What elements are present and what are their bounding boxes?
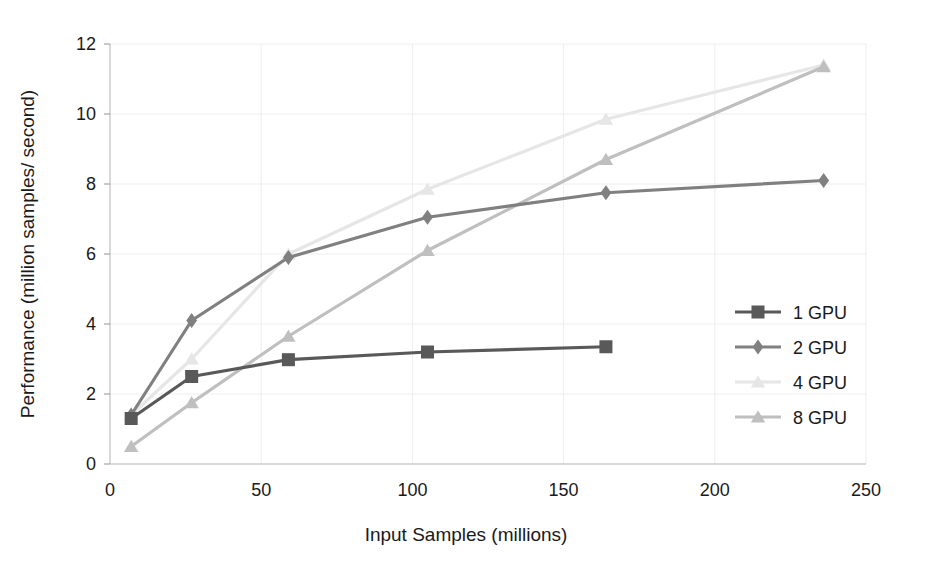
y-tick-label: 6: [86, 244, 96, 264]
legend-label: 4 GPU: [793, 373, 847, 393]
x-tick-label: 50: [251, 480, 271, 500]
x-tick-label: 200: [700, 480, 730, 500]
data-point-marker: [601, 185, 612, 200]
legend-label: 2 GPU: [793, 338, 847, 358]
gridlines: [110, 44, 866, 464]
series-line: [131, 347, 606, 419]
x-tick-label: 0: [105, 480, 115, 500]
line-chart: 024681012050100150200250 1 GPU2 GPU4 GPU…: [0, 0, 941, 566]
chart-container: 024681012050100150200250 1 GPU2 GPU4 GPU…: [0, 0, 941, 566]
data-point-marker: [282, 353, 295, 366]
series-4-gpu: [124, 58, 831, 420]
legend-marker-icon: [752, 306, 765, 319]
data-point-marker: [185, 370, 198, 383]
data-point-marker: [420, 244, 434, 256]
series-layer: [124, 58, 831, 452]
x-axis-title: Input Samples (millions): [365, 524, 568, 545]
chart-legend: 1 GPU2 GPU4 GPU8 GPU: [735, 303, 847, 428]
y-axis-title: Performance (million samples/ second): [17, 90, 38, 418]
series-2-gpu: [126, 173, 829, 423]
y-tick-label: 0: [86, 454, 96, 474]
series-8-gpu: [124, 60, 831, 452]
data-point-marker: [818, 173, 829, 188]
y-tick-label: 8: [86, 174, 96, 194]
legend-item-4-gpu[interactable]: 4 GPU: [735, 373, 847, 393]
y-tick-label: 4: [86, 314, 96, 334]
legend-label: 8 GPU: [793, 408, 847, 428]
series-line: [131, 65, 823, 415]
y-tick-label: 12: [76, 34, 96, 54]
x-tick-label: 150: [549, 480, 579, 500]
y-tick-label: 10: [76, 104, 96, 124]
data-point-marker: [421, 346, 434, 359]
x-tick-label: 100: [397, 480, 427, 500]
series-line: [131, 181, 823, 416]
y-tick-label: 2: [86, 384, 96, 404]
legend-item-8-gpu[interactable]: 8 GPU: [735, 408, 847, 428]
series-line: [131, 67, 823, 447]
tick-labels: 024681012050100150200250: [76, 34, 881, 500]
data-point-marker: [422, 210, 433, 225]
legend-item-2-gpu[interactable]: 2 GPU: [735, 338, 847, 358]
legend-marker-icon: [753, 340, 764, 355]
x-tick-label: 250: [851, 480, 881, 500]
data-point-marker: [125, 412, 138, 425]
legend-item-1-gpu[interactable]: 1 GPU: [735, 303, 847, 323]
legend-label: 1 GPU: [793, 303, 847, 323]
data-point-marker: [599, 340, 612, 353]
